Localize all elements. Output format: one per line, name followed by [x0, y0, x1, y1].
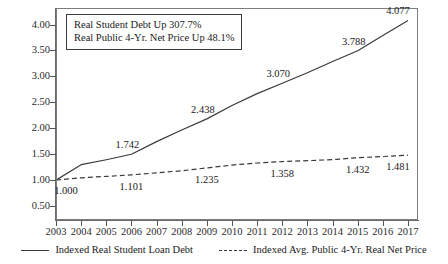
y-tick	[50, 128, 56, 129]
data-point-label: 1.235	[195, 174, 219, 185]
legend-item-net-price: Indexed Avg. Public 4-Yr. Real Net Price	[219, 244, 427, 256]
legend-swatch-solid-icon	[21, 250, 49, 251]
annotation-line-2: Real Public 4-Yr. Net Price Up 48.1%	[74, 32, 234, 45]
y-tick	[50, 206, 56, 207]
y-tick	[50, 102, 56, 103]
y-tick	[50, 180, 56, 181]
y-axis-label: 3.00	[4, 71, 50, 81]
y-tick	[50, 76, 56, 77]
data-point-label: 1.358	[270, 168, 294, 179]
data-point-label: 2.438	[191, 104, 215, 115]
y-axis-label: 0.50	[4, 201, 50, 211]
annotation-line-1: Real Student Debt Up 307.7%	[74, 19, 234, 32]
data-point-label: 1.101	[120, 181, 144, 192]
y-tick	[50, 25, 56, 26]
data-point-label: 3.070	[266, 68, 290, 79]
legend-item-student-loan-debt: Indexed Real Student Loan Debt	[21, 244, 193, 256]
annotation-box: Real Student Debt Up 307.7% Real Public …	[66, 14, 242, 50]
data-point-label: 1.000	[54, 185, 78, 196]
y-tick	[50, 50, 56, 51]
y-axis-label-wrap: 1.00	[0, 175, 50, 185]
x-axis-label: 2017	[393, 226, 423, 237]
y-axis-label: 1.00	[4, 175, 50, 185]
data-point-label: 1.742	[116, 139, 140, 150]
y-axis-label: 4.00	[4, 20, 50, 30]
y-axis-label: 1.50	[4, 149, 50, 159]
y-axis-label-wrap: 2.00	[0, 123, 50, 133]
legend-swatch-dashed-icon	[219, 250, 247, 251]
y-axis-label-wrap: 1.50	[0, 149, 50, 159]
legend-label-net-price: Indexed Avg. Public 4-Yr. Real Net Price	[253, 244, 427, 256]
chart-legend: Indexed Real Student Loan Debt Indexed A…	[0, 240, 448, 260]
y-axis-label-wrap: 0.50	[0, 201, 50, 211]
y-axis-label-wrap: 3.00	[0, 71, 50, 81]
data-point-label: 3.788	[342, 36, 366, 47]
x-axis-spine	[55, 220, 419, 221]
y-axis-label: 3.50	[4, 45, 50, 55]
y-axis-label: 2.00	[4, 123, 50, 133]
y-axis-label-wrap: 4.00	[0, 20, 50, 30]
chart-figure: 0.501.001.502.002.503.003.504.00 2003200…	[0, 0, 448, 264]
data-point-label: 1.432	[346, 164, 370, 175]
y-axis-label-wrap: 3.50	[0, 45, 50, 55]
data-point-label: 4.077	[386, 5, 410, 16]
y-tick	[50, 154, 56, 155]
y-axis-label: 2.50	[4, 97, 50, 107]
data-point-label: 1.481	[386, 161, 410, 172]
y-axis-label-wrap: 2.50	[0, 97, 50, 107]
legend-label-student-loan-debt: Indexed Real Student Loan Debt	[55, 244, 193, 256]
